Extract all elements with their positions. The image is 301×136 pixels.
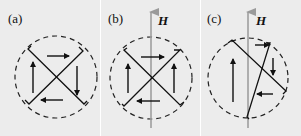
field-label-h: H <box>157 13 169 28</box>
panel-label-b: (b) <box>108 11 123 26</box>
panel-b: (b) H <box>108 11 192 128</box>
diagram-svg: (a) (b) H <box>0 0 301 136</box>
field-label-h: H <box>255 13 267 28</box>
panel-label-c: (c) <box>207 11 221 26</box>
domain-walls <box>228 40 286 119</box>
panel-a: (a) <box>8 11 97 118</box>
magnetic-domain-figure: (a) (b) H <box>0 0 301 136</box>
panel-label-a: (a) <box>8 11 22 26</box>
panel-c: (c) H <box>207 11 288 128</box>
